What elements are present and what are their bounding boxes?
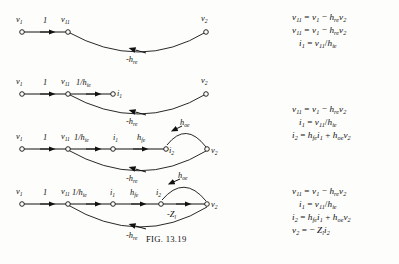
- graph-1-node-v1: [20, 30, 25, 35]
- graph-3: v1 v11 i1 i2 v2 1 1/hie hfe hoe -hre: [0, 117, 258, 179]
- graph-4-node-i1-label: i1: [110, 188, 115, 198]
- graph-3-edge-v2-v11-curve: [68, 150, 206, 171]
- graph-4-node-i2-label: i2: [156, 188, 161, 198]
- eq-block2-i1: i1 = v11/hie: [258, 117, 399, 130]
- graph-3-edge-v11-i1-label: 1/hie: [74, 133, 89, 143]
- graph-3-node-i2-label: i2: [169, 146, 174, 156]
- graph-1-node-v11-label: v11: [61, 15, 70, 25]
- graph-2-node-i1: [111, 92, 116, 97]
- graph-4-node-i2: [159, 202, 164, 207]
- graph-3-node-i2: [164, 147, 169, 152]
- equations-column: v11 = v1 − hrev2 v11 = v1 − hrev2 i1 = v…: [258, 0, 399, 264]
- graph-1-node-v1-label: v1: [16, 15, 23, 25]
- graph-4-edge-v11-i1-label: 1/hie: [72, 188, 87, 198]
- eq-block1-v11-dup: v11 = v1 − hrev2: [258, 25, 399, 38]
- graph-3-edge-v2-i2-curve: [167, 133, 206, 147]
- graph-3-edge-v1-v11-label: 1: [43, 133, 47, 142]
- equation-block-3: v11 = v1 − hrev2 i1 = v11/hie i2 = hfei1…: [258, 186, 399, 238]
- eq-block2-v11: v11 = v1 − hrev2: [258, 104, 399, 117]
- eq-block3-i1: i1 = v11/hie: [258, 199, 399, 212]
- graph-4-node-i1: [111, 202, 116, 207]
- graph-2: v1 v11 i1 v2 1 1/hie -hre: [0, 62, 258, 124]
- graph-2-edge-v11-i1-label: 1/hie: [76, 78, 91, 88]
- graph-2-node-v2-label: v2: [201, 76, 208, 86]
- eq-block3-i2: i2 = hfei1 + hoev2: [258, 212, 399, 225]
- graph-4-edge-v2-v11-curve: [68, 205, 207, 227]
- graph-2-node-v1-label: v1: [16, 77, 23, 87]
- graph-1-node-v11: [66, 30, 71, 35]
- graph-3-edge-i1-i2-label: hfe: [137, 133, 146, 143]
- figure-caption: FIG. 13.19: [146, 234, 186, 244]
- equation-block-2: v11 = v1 − hrev2 i1 = v11/hie i2 = hfei1…: [258, 104, 399, 143]
- graph-3-node-i1-label: i1: [113, 133, 118, 143]
- signal-flow-graphs: v1 v11 v2 1 -hre v1 v11 i1 v2 1 1/hie -h…: [0, 0, 258, 264]
- graph-4-node-v2: [205, 202, 210, 207]
- graph-3-node-v11-label: v11: [61, 132, 70, 142]
- graph-4-node-v11: [66, 202, 71, 207]
- eq-block2-i2: i2 = hfei1 + hoev2: [258, 130, 399, 143]
- graph-3-node-v11: [66, 147, 71, 152]
- graph-4: v1 v11 i1 i2 v2 1 1/hie hfe -Zl hoe -hre: [0, 172, 258, 242]
- graph-4-node-v11-label: v11: [61, 187, 70, 197]
- graph-2-node-v11: [66, 92, 71, 97]
- graph-2-node-v11-label: v11: [61, 77, 70, 87]
- eq-block3-v11: v11 = v1 − hrev2: [258, 186, 399, 199]
- graph-4-edge-v1-v11-label: 1: [43, 188, 47, 197]
- eq-block3-v2: v2 = − Zli2: [258, 225, 399, 238]
- graph-2-node-v1: [20, 92, 25, 97]
- graph-3-node-i1: [111, 147, 116, 152]
- graph-4-node-v2-label: v2: [211, 200, 218, 210]
- graph-3-edge-v2-i2-label: hoe: [180, 118, 190, 128]
- graph-1: v1 v11 v2 1 -hre: [0, 0, 258, 62]
- graph-1-edge-v2-v11-curve: [68, 32, 206, 52]
- eq-block1-i1: i1 = v11/hie: [258, 38, 399, 51]
- graph-3-node-v2: [205, 147, 210, 152]
- graph-1-node-v2: [204, 30, 209, 35]
- equation-block-1: v11 = v1 − hrev2 v11 = v1 − hrev2 i1 = v…: [258, 12, 399, 51]
- graph-3-node-v1-label: v1: [16, 132, 23, 142]
- graph-2-node-v2: [204, 92, 209, 97]
- graph-2-edge-v1-v11-label: 1: [43, 78, 47, 87]
- graph-4-edge-i1-i2-label: hfe: [130, 188, 139, 198]
- graph-3-node-v1: [20, 147, 25, 152]
- graph-4-edge-v2-v11-label: -hre: [126, 231, 138, 241]
- graph-2-node-i1-label: i1: [117, 89, 122, 99]
- figure-page: v1 v11 v2 1 -hre v1 v11 i1 v2 1 1/hie -h…: [0, 0, 399, 264]
- graph-1-node-v2-label: v2: [201, 14, 208, 24]
- graph-3-node-v2-label: v2: [211, 146, 218, 156]
- graph-4-node-v1: [20, 202, 25, 207]
- graph-4-node-v1-label: v1: [16, 187, 23, 197]
- eq-block1-v11: v11 = v1 − hrev2: [258, 12, 399, 25]
- graph-4-edge-v2-i2-curve: [162, 187, 206, 201]
- figure-caption-text: FIG. 13.19: [146, 234, 186, 244]
- graph-4-edge-v2-i2-label: hoe: [178, 171, 188, 181]
- graph-1-edge-v1-v11-label: 1: [43, 16, 47, 25]
- graph-2-edge-v2-v11-curve: [68, 94, 206, 114]
- graph-4-edge-i2-v2-label: -Zl: [167, 210, 176, 220]
